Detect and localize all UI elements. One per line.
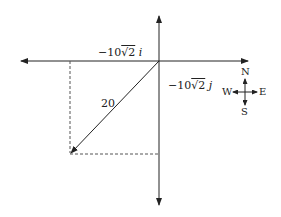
resultant-vector bbox=[71, 61, 159, 153]
j-prefix: −10 bbox=[168, 79, 191, 92]
compass-south-label: S bbox=[241, 107, 248, 117]
compass-west-label: W bbox=[222, 87, 232, 97]
compass-icon bbox=[233, 79, 257, 105]
magnitude-label: 20 bbox=[101, 98, 115, 109]
i-radical: √2 bbox=[121, 46, 135, 59]
i-component-label: −10√2 i bbox=[98, 47, 142, 58]
i-unit: i bbox=[139, 46, 143, 59]
diagram-graphics bbox=[0, 0, 281, 217]
j-unit: j bbox=[209, 79, 212, 92]
i-prefix: −10 bbox=[98, 46, 121, 59]
j-component-label: −10√2 j bbox=[168, 80, 212, 91]
compass-east-label: E bbox=[259, 87, 266, 97]
vector-diagram: −10√2 i −10√2 j 20 N S E W bbox=[0, 0, 281, 217]
j-radical: √2 bbox=[191, 79, 205, 92]
compass-north-label: N bbox=[241, 67, 250, 77]
